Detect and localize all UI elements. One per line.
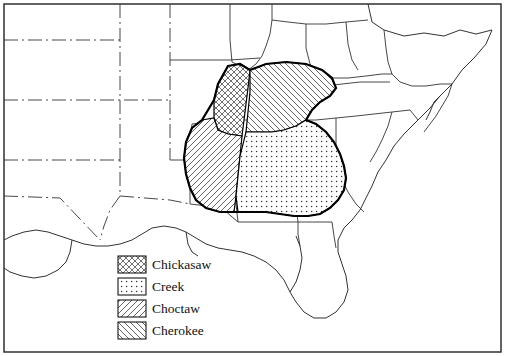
legend-swatch-cherokee[interactable] — [118, 322, 146, 339]
legend-swatch-chickasaw[interactable] — [118, 256, 146, 273]
legend-label-choctaw: Choctaw — [152, 301, 200, 316]
legend-swatch-choctaw[interactable] — [118, 300, 146, 317]
map-figure: Chickasaw Creek Choctaw Cherokee — [0, 0, 505, 356]
legend-label-creek: Creek — [152, 279, 184, 294]
legend-label-cherokee: Cherokee — [152, 323, 204, 338]
map-canvas: Chickasaw Creek Choctaw Cherokee — [0, 0, 505, 356]
legend-swatch-creek[interactable] — [118, 278, 146, 295]
legend-label-chickasaw: Chickasaw — [152, 257, 211, 272]
